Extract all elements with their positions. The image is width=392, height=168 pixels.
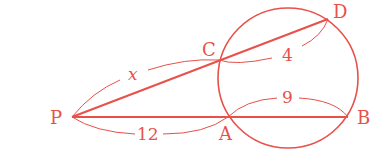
- label-C: C: [202, 39, 216, 60]
- arc-PC-left: [72, 80, 120, 117]
- secant-diagram: P C D A B x 4 12 9: [0, 0, 392, 168]
- diagram-canvas: P C D A B x 4 12 9: [0, 0, 392, 168]
- measure-CD: 4: [282, 45, 293, 65]
- measure-PC: x: [128, 64, 138, 84]
- label-B: B: [357, 107, 370, 128]
- arc-AB-left: [228, 98, 277, 117]
- label-D: D: [333, 1, 347, 22]
- arc-PA-left: [72, 117, 135, 134]
- label-A: A: [218, 123, 233, 144]
- measure-PA: 12: [137, 124, 159, 144]
- measure-AB: 9: [282, 87, 293, 107]
- circle: [218, 8, 358, 148]
- arc-AB-right: [299, 98, 348, 117]
- label-P: P: [50, 107, 62, 128]
